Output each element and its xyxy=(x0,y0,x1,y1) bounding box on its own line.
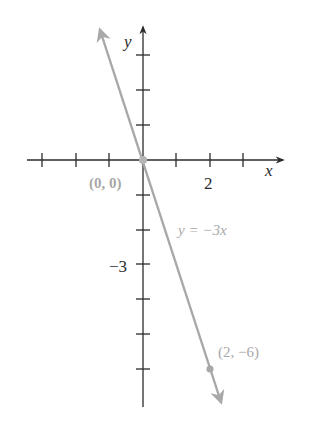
x-axis-label: x xyxy=(264,161,273,180)
point-origin xyxy=(139,156,147,164)
line-y-equals-neg3x xyxy=(100,30,221,402)
coordinate-plane: y x 2 −3 (0, 0) y = −3x (2, −6) xyxy=(0,0,317,442)
point-2-neg6-label: (2, −6) xyxy=(218,344,259,361)
y-axis-label: y xyxy=(122,32,132,51)
x-tick-label-2: 2 xyxy=(204,174,213,193)
y-tick-label-neg3: −3 xyxy=(109,257,127,276)
origin-label: (0, 0) xyxy=(89,175,122,192)
equation-label: y = −3x xyxy=(176,222,227,238)
point-2-neg6 xyxy=(206,365,213,372)
